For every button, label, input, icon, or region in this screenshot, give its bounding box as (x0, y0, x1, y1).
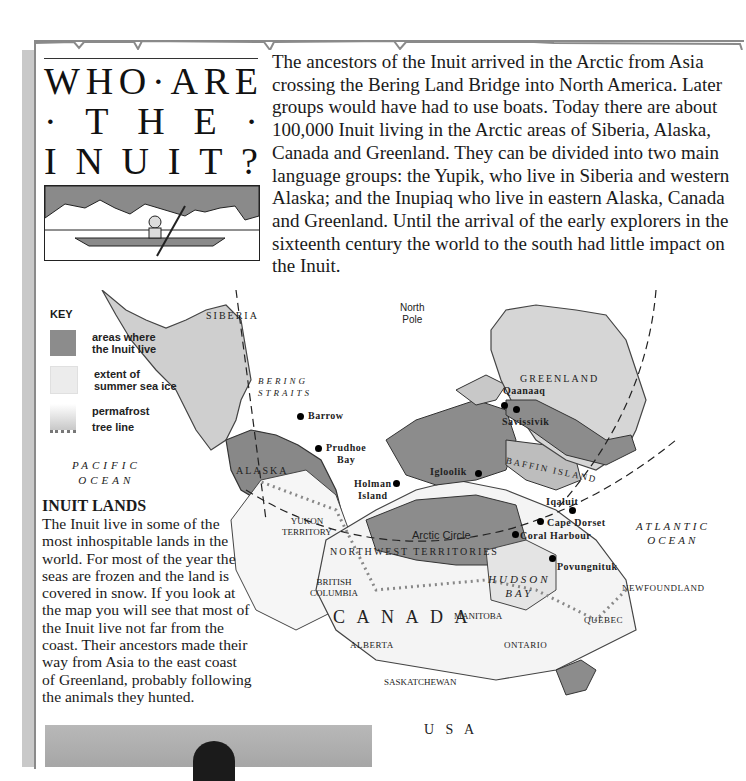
key-title: KEY (50, 308, 210, 320)
city-dot-qaanaaq (501, 402, 508, 409)
label-atlantic-ocean: ATLANTIC OCEAN (636, 519, 710, 547)
intro-paragraph: The ancestors of the Inuit arrived in th… (272, 51, 734, 278)
city-holman-island: Holman Island (354, 478, 391, 502)
inuit-lands-section: INUIT LANDS The Inuit live in some of th… (42, 497, 252, 705)
label-hudson-1: HUDSON (488, 572, 551, 586)
page-title: W H O · A R E · T H E · I N U I T ? (44, 58, 258, 261)
label-newfoundland: NEWFOUNDLAND (622, 583, 705, 593)
city-dot-cape-dorset (537, 518, 544, 525)
key-item-inuit-areas: areas where the Inuit live (50, 330, 210, 356)
city-coral-harbour: Coral Harbour (520, 530, 591, 541)
title-char: U (122, 141, 149, 181)
city-dot-holman-island (393, 480, 400, 487)
title-char: T (85, 101, 108, 141)
label-usa: U S A (424, 722, 478, 738)
label-manitoba: MANITOBA (454, 611, 502, 621)
inuit-area-swatch-icon (50, 330, 76, 356)
label-yukon: YUKON TERRITORY (282, 516, 332, 538)
label-pacific-2: OCEAN (72, 473, 141, 488)
city-iqaluit: Iqaluit (546, 496, 578, 507)
map-key: KEY areas where the Inuit live extent of… (50, 308, 210, 443)
title-char: A (170, 61, 197, 101)
title-char: I (44, 141, 57, 181)
label-hudson-bay: HUDSON BAY (488, 572, 551, 600)
title-char: T (199, 141, 222, 181)
inuit-photo (45, 725, 372, 767)
key-label-line: tree line (92, 421, 149, 433)
key-label-line: extent of (94, 368, 177, 380)
label-yukon-1: YUKON (282, 516, 332, 527)
label-hudson-2: BAY (488, 586, 551, 600)
key-label-line: areas where (92, 331, 156, 343)
key-label: permafrost tree line (92, 405, 149, 433)
label-north-pole: North Pole (400, 302, 424, 326)
city-prudhoe-1: Prudhoe (326, 442, 366, 454)
city-dot-prudhoe-bay (315, 445, 322, 452)
city-prudhoe-2: Bay (326, 454, 366, 466)
city-qaanaaq: Qaanaaq (503, 385, 545, 396)
person-head-shape (193, 741, 235, 781)
title-char: E (193, 101, 216, 141)
permafrost-tree-line-icon (50, 404, 76, 433)
label-bering-1: BERING (258, 376, 308, 386)
title-char: · (245, 101, 258, 141)
title-char: O (119, 61, 146, 101)
city-dot-barrow (297, 413, 304, 420)
label-atlantic-1: ATLANTIC (636, 519, 710, 533)
key-label: areas where the Inuit live (92, 331, 156, 355)
city-prudhoe-bay: Prudhoe Bay (326, 442, 366, 466)
torn-edge-decoration (34, 36, 746, 50)
label-north-pole-1: North (400, 302, 424, 314)
title-char: R (204, 61, 229, 101)
city-dot-iqaluit (569, 507, 576, 514)
inuit-lands-body: The Inuit live in some of the most inhos… (42, 515, 252, 705)
label-alberta: ALBERTA (350, 640, 394, 650)
title-char: H (86, 61, 113, 101)
label-alaska: ALASKA (236, 465, 289, 476)
label-yukon-2: TERRITORY (282, 527, 332, 538)
title-char: ? (241, 141, 258, 181)
city-dot-coral-harbour (512, 531, 519, 538)
kayak-illustration-icon (44, 185, 260, 261)
title-line-3: I N U I T ? (44, 141, 258, 181)
title-char: H (137, 101, 164, 141)
label-bc-1: BRITISH (310, 577, 358, 588)
title-line-2: · T H E · (44, 101, 258, 141)
label-siberia: SIBERIA (206, 310, 259, 321)
inuit-lands-heading: INUIT LANDS (42, 497, 252, 515)
key-item-sea-ice: extent of summer sea ice (50, 366, 210, 394)
key-label: extent of summer sea ice (94, 368, 177, 392)
title-char: E (235, 61, 258, 101)
label-pacific-1: PACIFIC (72, 458, 141, 473)
title-char: · (152, 61, 165, 101)
key-label-line: permafrost (92, 405, 149, 417)
label-bering-2: STRAITS (258, 388, 312, 398)
key-label-line: summer sea ice (94, 380, 177, 392)
label-north-pole-2: Pole (400, 314, 424, 326)
city-savissivik: Savissivik (502, 416, 549, 427)
key-label-line: the Inuit live (92, 343, 156, 355)
city-povungnituk: Povungnituk (557, 561, 618, 572)
city-igloolik: Igloolik (430, 466, 467, 477)
label-british-columbia: BRITISH COLUMBIA (310, 577, 358, 599)
title-char: · (44, 101, 57, 141)
label-arctic-circle: Arctic Circle (412, 529, 471, 541)
sea-ice-swatch-icon (50, 366, 78, 394)
city-barrow: Barrow (308, 410, 344, 421)
label-atlantic-2: OCEAN (636, 533, 710, 547)
city-dot-savissivik (513, 406, 520, 413)
title-rule (44, 58, 258, 59)
title-char: N (75, 141, 102, 181)
label-pacific-ocean: PACIFIC OCEAN (72, 458, 141, 488)
label-northwest-territories: NORTHWEST TERRITORIES (330, 546, 499, 557)
city-cape-dorset: Cape Dorset (547, 517, 606, 528)
title-line-1: W H O · A R E (44, 61, 258, 101)
page-edge-shadow (22, 50, 34, 767)
label-greenland: GREENLAND (520, 373, 599, 384)
key-item-permafrost: permafrost tree line (50, 404, 210, 433)
city-dot-igloolik (475, 470, 482, 477)
label-canada: C A N A D A (333, 607, 472, 628)
label-ontario: ONTARIO (504, 640, 547, 650)
label-bc-2: COLUMBIA (310, 588, 358, 599)
label-saskatchewan: SASKATCHEWAN (384, 677, 457, 687)
